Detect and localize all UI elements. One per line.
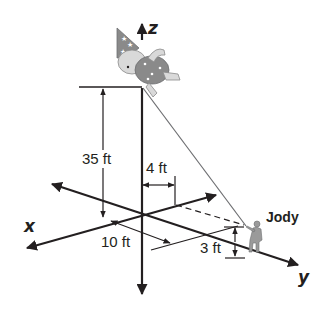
- jody-label: Jody: [266, 209, 299, 225]
- x-axis-label: x: [23, 216, 36, 236]
- offset-y-dimension-label: 4 ft: [146, 159, 168, 176]
- z-axis-label: z: [147, 18, 158, 38]
- y-axis-label: y: [298, 267, 310, 287]
- 3d-balloon-diagram: ★ ★ ★ z x y 35 ft 4 ft 10 ft 3 ft Jody: [0, 0, 328, 312]
- ground-dashed-line: [176, 205, 244, 225]
- jody-height-dimension-label: 3 ft: [200, 239, 222, 256]
- svg-text:★: ★: [127, 41, 133, 49]
- height-dimension-label: 35 ft: [82, 150, 112, 167]
- offset-y-dimension: [143, 176, 175, 205]
- jody-figure: [246, 221, 262, 252]
- offset-x-dimension-label: 10 ft: [101, 233, 131, 250]
- balloon-string: [143, 88, 246, 226]
